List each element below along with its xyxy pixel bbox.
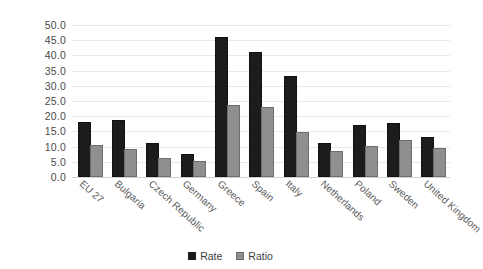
chart-legend: RateRatio <box>0 250 461 262</box>
bar-ratio <box>399 140 412 177</box>
x-axis-tick-label: Greece <box>215 178 247 209</box>
x-axis-tick-label: Poland <box>353 178 384 207</box>
bar-group <box>347 25 381 177</box>
bar-ratio <box>296 132 309 177</box>
x-axis-tick-label: Spain <box>250 178 277 204</box>
bar-ratio <box>124 149 137 177</box>
x-axis-tick-label: Sweden <box>387 178 422 211</box>
y-axis-tick-label: 5.0 <box>51 156 66 168</box>
y-axis: 0.05.010.015.020.025.030.035.040.045.050… <box>0 25 66 177</box>
bar-group <box>141 25 175 177</box>
x-axis-tick-label: Bulgaria <box>112 178 147 211</box>
y-axis-tick-label: 15.0 <box>45 125 66 137</box>
bar-ratio <box>90 145 103 177</box>
bar-ratio <box>227 105 240 177</box>
y-axis-tick-label: 45.0 <box>45 34 66 46</box>
bar-ratio <box>193 161 206 177</box>
bar-group <box>175 25 209 177</box>
legend-label: Ratio <box>248 250 273 262</box>
bar-group <box>278 25 312 177</box>
bar-group <box>244 25 278 177</box>
bar-group <box>209 25 243 177</box>
y-axis-tick-label: 25.0 <box>45 95 66 107</box>
plot-area <box>72 25 450 177</box>
x-axis-tick-label: United Kingdom <box>421 178 482 235</box>
bar-ratio <box>433 148 446 177</box>
x-axis-tick-label: Italy <box>284 178 305 199</box>
legend-swatch-icon <box>188 252 196 260</box>
legend-swatch-icon <box>236 252 244 260</box>
x-axis-tick-label: EU 27 <box>78 178 106 205</box>
y-axis-tick-label: 50.0 <box>45 19 66 31</box>
bar-group <box>72 25 106 177</box>
bar-group <box>381 25 415 177</box>
y-axis-tick-label: 0.0 <box>51 171 66 183</box>
bar-ratio <box>330 151 343 177</box>
bars-layer <box>72 25 450 177</box>
y-axis-tick-label: 40.0 <box>45 49 66 61</box>
y-axis-tick-label: 10.0 <box>45 141 66 153</box>
bar-ratio <box>158 158 171 177</box>
bar-group <box>313 25 347 177</box>
y-axis-tick-label: 35.0 <box>45 65 66 77</box>
y-axis-tick-label: 30.0 <box>45 80 66 92</box>
legend-item-ratio[interactable]: Ratio <box>236 250 273 262</box>
x-axis-labels: EU 27BulgariaCzech RepublicGermanyGreece… <box>72 178 450 248</box>
y-axis-tick-label: 20.0 <box>45 110 66 122</box>
bar-ratio <box>261 107 274 177</box>
legend-item-rate[interactable]: Rate <box>188 250 222 262</box>
bar-group <box>416 25 450 177</box>
bar-ratio <box>365 146 378 177</box>
bar-group <box>106 25 140 177</box>
legend-label: Rate <box>200 250 222 262</box>
